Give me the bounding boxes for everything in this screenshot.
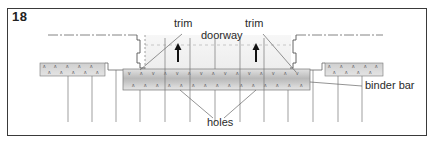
trim-left-label: trim	[174, 17, 192, 29]
holes-label: holes	[207, 116, 233, 128]
right-carpet-strip: ʌʌʌʌʌ ʌʌʌʌ	[325, 63, 383, 76]
trim-right-label: trim	[245, 17, 263, 29]
left-door-jamb	[137, 35, 145, 68]
binder-bar: vʌvʌvʌvʌvʌvʌvʌv ʌʌʌʌʌʌʌʌʌʌʌʌʌʌʌ	[123, 69, 310, 90]
binder-bar-leader	[310, 82, 362, 86]
holes-leader-left	[180, 90, 213, 118]
left-carpet-strip: ʌʌʌʌʌ ʌʌʌʌʌ	[40, 63, 105, 76]
doorway-label: doorway	[201, 29, 243, 41]
binder-bar-label: binder bar	[365, 79, 415, 91]
